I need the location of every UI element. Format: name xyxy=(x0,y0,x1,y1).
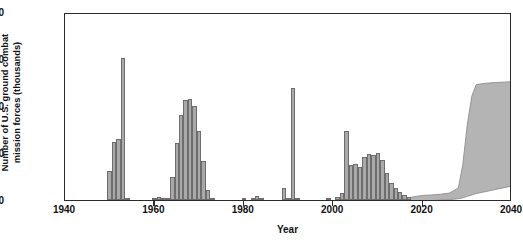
x-tick-label: 1940 xyxy=(34,204,94,215)
x-tick-mark xyxy=(422,201,423,206)
bar-series xyxy=(65,14,510,200)
x-tick-mark xyxy=(332,201,333,206)
bar xyxy=(326,198,330,200)
y-tick-label: 600 xyxy=(0,54,4,65)
x-tick-mark xyxy=(153,201,154,206)
bar xyxy=(291,88,295,200)
bar xyxy=(125,198,129,200)
bar xyxy=(121,58,125,200)
x-axis-title: Year xyxy=(64,224,511,235)
y-axis-title-container: Number of U.S. ground combat mission for… xyxy=(0,0,34,215)
y-tick-label: 200 xyxy=(0,148,4,159)
y-tick-label: 800 xyxy=(0,7,4,18)
bar xyxy=(259,198,263,200)
bar xyxy=(295,198,299,200)
plot-area xyxy=(64,13,511,201)
bar xyxy=(242,198,246,200)
x-tick-mark xyxy=(243,201,244,206)
y-tick-label: 0 xyxy=(0,195,4,206)
y-tick-label: 400 xyxy=(0,101,4,112)
x-tick-label: 2040 xyxy=(481,204,523,215)
bar xyxy=(407,197,411,200)
bar xyxy=(210,198,214,200)
y-axis-title-line-2: mission forces (thousands) xyxy=(12,0,24,205)
chart-figure: Number of U.S. ground combat mission for… xyxy=(0,0,523,252)
